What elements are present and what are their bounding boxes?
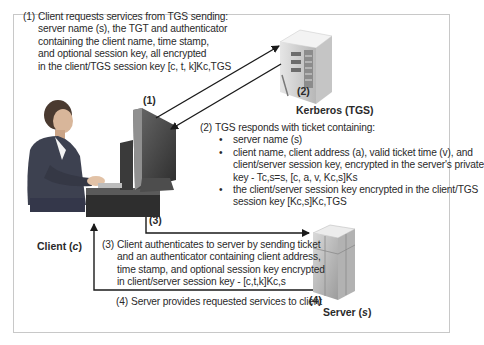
- desk-icon: [86, 188, 160, 217]
- kerberos-label: Kerberos (TGS): [296, 104, 374, 116]
- server-label: Server (s): [323, 306, 371, 318]
- step-2-description: (2) TGS responds with ticket containing:…: [200, 122, 484, 209]
- client-monitor-icon: [98, 108, 176, 192]
- step-4-description: (4) Server provides requested services t…: [116, 296, 322, 308]
- client-label: Client (c): [37, 240, 82, 252]
- ticket-item-server-name: server name (s): [215, 134, 484, 146]
- step-1-description: (1) Client requests services from TGS se…: [23, 11, 231, 73]
- arrow-step-2: [171, 64, 281, 129]
- step-3-description: (3) Client authenticates to server by se…: [102, 239, 325, 289]
- ticket-item-session-key: the client/server session key encrypted …: [215, 184, 484, 209]
- ticket-item-encrypted-ticket: client name, client address (a), valid t…: [215, 147, 484, 184]
- step-2-marker: (2): [297, 85, 310, 97]
- step-4-marker: (4): [309, 294, 322, 306]
- arrow-step-3: [146, 217, 309, 233]
- step-1-marker: (1): [143, 94, 156, 106]
- step-3-marker: (3): [149, 214, 162, 226]
- ticket-contents-list: server name (s) client name, client addr…: [215, 134, 484, 208]
